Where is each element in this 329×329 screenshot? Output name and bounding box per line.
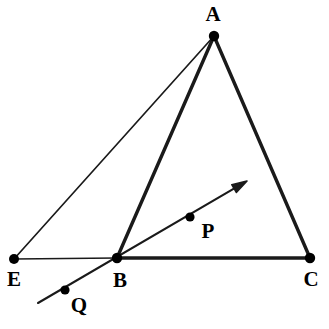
point-label-A: A: [205, 4, 220, 25]
segment-EB: [14, 258, 117, 259]
geometry-canvas: [0, 0, 329, 329]
point-dot-E: [9, 254, 19, 264]
point-dot-B: [112, 253, 122, 263]
point-label-E: E: [7, 269, 21, 290]
point-label-Q: Q: [71, 295, 87, 316]
point-dot-P: [185, 212, 194, 221]
segment-EA: [14, 36, 214, 259]
ray-QBP-shaft: [38, 185, 240, 303]
segment-AB: [117, 36, 214, 258]
point-label-C: C: [303, 269, 318, 290]
point-dot-C: [305, 253, 315, 263]
point-label-P: P: [202, 221, 215, 242]
point-dot-Q: [60, 285, 69, 294]
geometry-diagram: A E B C P Q: [0, 0, 329, 329]
ray-arrowhead-icon: [232, 181, 247, 192]
segment-AC: [214, 36, 310, 258]
point-label-B: B: [113, 270, 127, 291]
point-dot-A: [209, 31, 219, 41]
